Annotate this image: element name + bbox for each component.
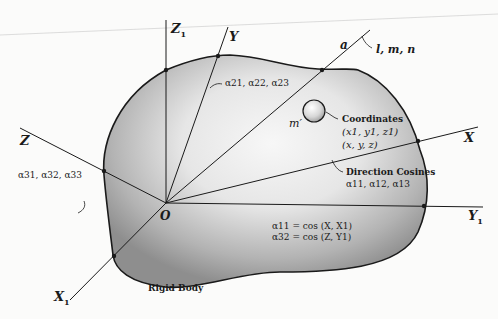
label-coordinates-title: Coordinates xyxy=(342,115,403,124)
label-particle: m′ xyxy=(289,118,302,129)
dot-x xyxy=(416,139,420,143)
dot-x1 xyxy=(112,254,116,258)
label-x: X xyxy=(464,131,474,144)
dot-y xyxy=(216,54,220,58)
leader-lmn xyxy=(362,36,372,48)
page-fold-line xyxy=(0,14,498,35)
label-alpha-row3: α31, α32, α33 xyxy=(18,171,82,180)
rigid-body-diagram xyxy=(0,0,498,319)
label-rigid-body: Rigid Body xyxy=(148,284,203,293)
label-y: Y xyxy=(229,30,238,43)
equation-alpha32: α32 = cos (Z, Y1) xyxy=(272,233,351,242)
label-y1: Y1 xyxy=(468,209,483,225)
label-z1: Z1 xyxy=(171,22,186,38)
dot-a xyxy=(320,68,324,72)
label-alpha-row1: α11, α12, α13 xyxy=(346,180,410,189)
label-coords-fixed: (x1, y1, z1) xyxy=(342,127,398,137)
label-origin: O xyxy=(160,210,170,222)
label-coords-body: (x, y, z) xyxy=(342,140,378,150)
label-z: Z xyxy=(20,134,30,147)
label-alpha-row2: α21, α22, α23 xyxy=(225,79,289,88)
dot-z1 xyxy=(164,68,168,72)
dot-y1 xyxy=(422,204,426,208)
label-x1: X1 xyxy=(54,290,70,306)
label-direction-cosines-title: Direction Cosines xyxy=(346,168,435,177)
label-lmn: l, m, n xyxy=(376,44,415,55)
equation-alpha11: α11 = cos (X, X1) xyxy=(272,222,352,231)
leader-alpha3 xyxy=(78,201,85,213)
particle-sphere xyxy=(303,100,325,122)
dot-z xyxy=(102,169,106,173)
label-a: a xyxy=(340,39,348,51)
